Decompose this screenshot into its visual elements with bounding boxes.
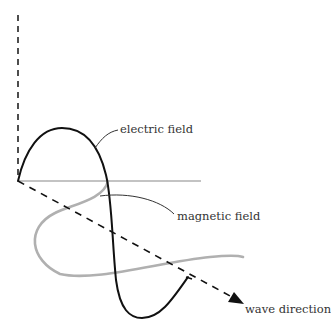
magnetic-field-label: magnetic field (177, 209, 260, 223)
wave-direction-axis (18, 181, 232, 297)
electric-field-curve (18, 128, 188, 318)
electric-label-leader (95, 130, 118, 148)
wave-direction-label: wave direction (245, 302, 331, 316)
magnetic-field-curve (35, 181, 243, 276)
arrowhead-icon (228, 292, 244, 304)
electric-field-label: electric field (120, 122, 193, 136)
